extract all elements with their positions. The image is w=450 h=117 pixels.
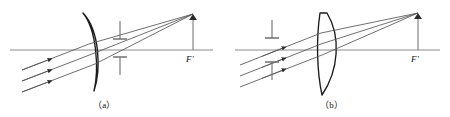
- panel-b: [235, 13, 440, 95]
- ray-bundle-a: [22, 14, 193, 92]
- meniscus-lens-a: [83, 13, 98, 91]
- panel-a: [10, 13, 213, 92]
- optics-figure: F' F' （a） （b）: [0, 0, 450, 117]
- ray-lower-a: [22, 14, 193, 92]
- ray-upper-a: [22, 14, 193, 70]
- focal-label-a: F': [186, 54, 194, 64]
- ray-upper-b: [240, 13, 418, 65]
- focal-label-b: F': [411, 54, 419, 64]
- ray-middle-b: [240, 13, 418, 76]
- panel-caption-a: （a）: [93, 98, 116, 111]
- ray-arrowheads-a: [22, 59, 52, 93]
- plano-convex-lens-b: [318, 13, 337, 95]
- panel-caption-b: （b）: [320, 98, 343, 111]
- aperture-stop-a: [113, 21, 127, 75]
- ray-diagram-canvas: [0, 0, 450, 117]
